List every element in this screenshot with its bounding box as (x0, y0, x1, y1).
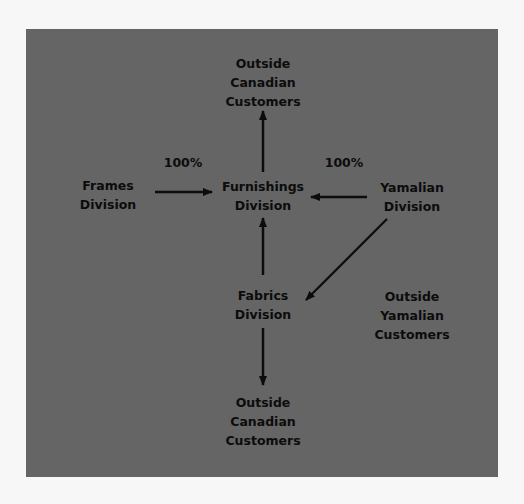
node-line: Furnishings (222, 177, 304, 196)
node-line: Customers (225, 431, 300, 450)
node-outside-canadian-customers-top: Outside Canadian Customers (225, 54, 300, 111)
node-line: Division (380, 197, 444, 216)
node-fabrics-division: Fabrics Division (235, 286, 291, 324)
node-outside-canadian-customers-bottom: Outside Canadian Customers (225, 393, 300, 450)
node-line: Canadian (225, 73, 300, 92)
node-yamalian-division: Yamalian Division (380, 178, 444, 216)
node-line: Yamalian (374, 306, 449, 325)
edge-label-frames-to-furnishings: 100% (164, 155, 203, 170)
node-line: Division (222, 196, 304, 215)
node-line: Division (235, 305, 291, 324)
edge-label-yamalian-to-furnishings: 100% (325, 155, 364, 170)
node-line: Outside (374, 287, 449, 306)
node-line: Yamalian (380, 178, 444, 197)
node-outside-yamalian-customers: Outside Yamalian Customers (374, 287, 449, 344)
node-line: Canadian (225, 412, 300, 431)
node-frames-division: Frames Division (80, 176, 136, 214)
node-line: Fabrics (235, 286, 291, 305)
node-line: Frames (80, 176, 136, 195)
node-line: Division (80, 195, 136, 214)
node-line: Customers (225, 92, 300, 111)
node-line: Outside (225, 54, 300, 73)
node-furnishings-division: Furnishings Division (222, 177, 304, 215)
node-line: Customers (374, 325, 449, 344)
node-line: Outside (225, 393, 300, 412)
